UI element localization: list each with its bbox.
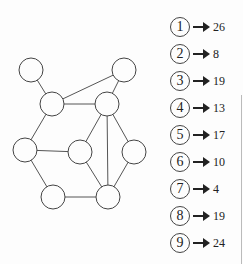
graph-node <box>112 58 136 82</box>
legend-number-circle: 5 <box>170 125 190 145</box>
legend-number-circle: 8 <box>170 206 190 226</box>
graph-node <box>95 92 119 116</box>
graph-node <box>41 185 65 209</box>
border-line <box>241 95 242 264</box>
legend-value: 4 <box>213 182 219 197</box>
legend-item: 517 <box>170 124 225 146</box>
legend-number-circle: 9 <box>170 233 190 253</box>
arrow-right-icon <box>193 103 211 113</box>
graph-node <box>96 185 120 209</box>
arrow-right-icon <box>193 22 211 32</box>
legend-number-circle: 2 <box>170 44 190 64</box>
arrow-right-icon <box>193 157 211 167</box>
arrow-right-icon <box>193 76 211 86</box>
legend-item: 610 <box>170 151 225 173</box>
graph-node <box>68 140 92 164</box>
legend-number-circle: 7 <box>170 179 190 199</box>
legend-value: 17 <box>213 128 225 143</box>
legend-item: 126 <box>170 16 225 38</box>
legend-item: 819 <box>170 205 225 227</box>
arrow-right-icon <box>193 184 211 194</box>
legend-item: 924 <box>170 232 225 254</box>
graph-node <box>19 58 43 82</box>
legend-value: 13 <box>213 101 225 116</box>
legend-number-circle: 6 <box>170 152 190 172</box>
graph-node <box>13 138 37 162</box>
arrow-right-icon <box>193 49 211 59</box>
arrow-right-icon <box>193 130 211 140</box>
legend-item: 413 <box>170 97 225 119</box>
graph-edge <box>107 104 108 197</box>
legend-value: 19 <box>213 209 225 224</box>
legend-number-circle: 3 <box>170 71 190 91</box>
legend-item: 319 <box>170 70 225 92</box>
legend-item: 74 <box>170 178 219 200</box>
graph-node <box>40 92 64 116</box>
graph-figure: 1262831941351761074819924 <box>0 0 243 264</box>
arrow-right-icon <box>193 238 211 248</box>
legend-value: 8 <box>213 47 219 62</box>
arrow-right-icon <box>193 211 211 221</box>
legend-value: 19 <box>213 74 225 89</box>
legend-value: 24 <box>213 236 225 251</box>
legend-value: 26 <box>213 20 225 35</box>
legend-number-circle: 1 <box>170 17 190 37</box>
legend-item: 28 <box>170 43 219 65</box>
legend-number-circle: 4 <box>170 98 190 118</box>
graph-node <box>122 140 146 164</box>
legend-value: 10 <box>213 155 225 170</box>
